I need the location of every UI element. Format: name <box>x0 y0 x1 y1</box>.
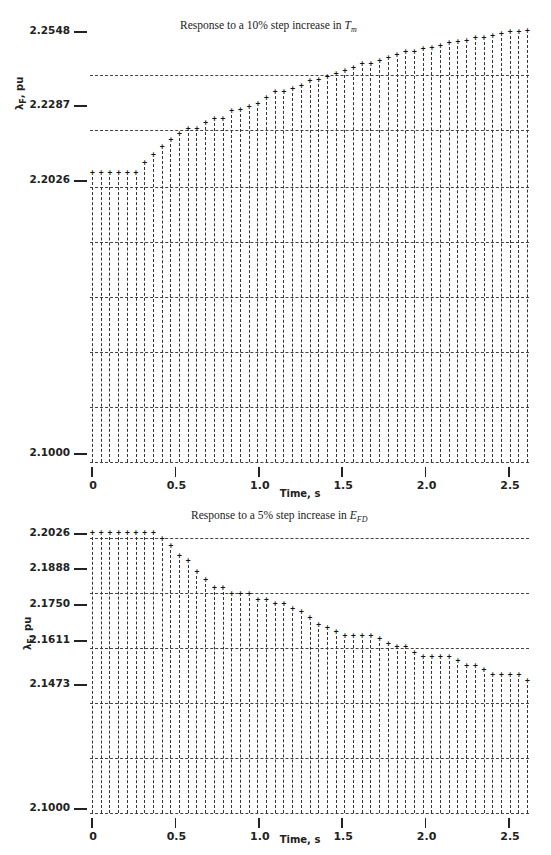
data-bar <box>188 565 189 813</box>
data-point-marker: + <box>229 590 234 598</box>
data-bar <box>518 679 519 813</box>
data-bar <box>501 679 502 813</box>
data-bar <box>431 661 432 813</box>
data-point-marker: + <box>116 529 121 537</box>
data-bar <box>510 679 511 813</box>
data-point-marker: + <box>273 600 278 608</box>
data-point-marker: + <box>160 535 165 543</box>
x-tick-label: 1.0 <box>250 830 270 843</box>
x-tick-mark <box>508 818 510 828</box>
data-point-marker: + <box>334 628 339 636</box>
data-bar <box>440 661 441 813</box>
data-bar <box>527 685 528 813</box>
y-tick-label: 2.1750 <box>10 597 70 609</box>
data-bar <box>266 604 267 813</box>
data-point-marker: + <box>482 666 487 674</box>
data-point-marker: + <box>151 529 156 537</box>
x-tick-mark <box>425 818 427 828</box>
y-tick-mark <box>74 640 87 642</box>
data-bar <box>153 537 154 813</box>
data-bar <box>144 537 145 813</box>
data-bar <box>475 670 476 813</box>
y-tick-label: 2.2026 <box>10 526 70 538</box>
data-bar <box>484 674 485 813</box>
data-point-marker: + <box>247 590 252 598</box>
x-tick-label: 0 <box>89 830 97 843</box>
y-tick-label: 2.1888 <box>10 561 70 573</box>
data-bar <box>397 651 398 813</box>
data-point-marker: + <box>316 621 321 629</box>
data-point-marker: + <box>473 662 478 670</box>
x-tick-mark <box>258 818 260 828</box>
data-point-marker: + <box>221 584 226 592</box>
data-point-marker: + <box>403 643 408 651</box>
data-bar <box>283 608 284 813</box>
data-bar <box>249 598 250 813</box>
data-point-marker: + <box>107 529 112 537</box>
data-bar <box>275 608 276 813</box>
data-point-marker: + <box>455 657 460 665</box>
data-point-marker: + <box>134 529 139 537</box>
data-point-marker: + <box>421 653 426 661</box>
grid-line <box>90 538 529 539</box>
data-bar <box>170 550 171 813</box>
data-bar <box>353 640 354 813</box>
data-point-marker: + <box>238 590 243 598</box>
data-point-marker: + <box>377 635 382 643</box>
data-bar <box>240 598 241 813</box>
data-bar <box>457 665 458 813</box>
data-bar <box>405 651 406 813</box>
x-tick-label: 1.5 <box>333 830 353 843</box>
data-point-marker: + <box>438 653 443 661</box>
data-point-marker: + <box>464 662 469 670</box>
data-point-marker: + <box>212 584 217 592</box>
data-bar <box>109 537 110 813</box>
data-point-marker: + <box>412 649 417 657</box>
data-point-marker: + <box>125 529 130 537</box>
chart-title: Response to a 5% step increase in EFD <box>191 509 367 524</box>
data-point-marker: + <box>429 653 434 661</box>
grid-line <box>90 593 529 594</box>
data-bar <box>310 622 311 813</box>
data-point-marker: + <box>395 643 400 651</box>
y-tick-mark <box>74 808 87 810</box>
data-bar <box>162 543 163 813</box>
x-tick-label: 0.5 <box>167 830 187 843</box>
y-tick-label: 2.1000 <box>10 801 70 813</box>
data-bar <box>344 640 345 813</box>
data-point-marker: + <box>142 529 147 537</box>
data-point-marker: + <box>325 624 330 632</box>
data-bar <box>370 640 371 813</box>
data-point-marker: + <box>99 529 104 537</box>
x-tick-mark <box>175 818 177 828</box>
data-point-marker: + <box>386 640 391 648</box>
data-point-marker: + <box>281 600 286 608</box>
data-bar <box>231 598 232 813</box>
data-bar <box>449 661 450 813</box>
y-tick-mark <box>74 604 87 606</box>
data-bar <box>118 537 119 813</box>
data-point-marker: + <box>255 596 260 604</box>
data-point-marker: + <box>508 671 513 679</box>
grid-line <box>90 813 529 814</box>
y-tick-mark <box>74 684 87 686</box>
data-point-marker: + <box>90 529 95 537</box>
data-bar <box>423 661 424 813</box>
data-point-marker: + <box>368 632 373 640</box>
data-bar <box>318 629 319 813</box>
x-tick-mark <box>91 818 93 828</box>
y-tick-label: 2.1611 <box>10 633 70 645</box>
data-point-marker: + <box>308 614 313 622</box>
data-point-marker: + <box>499 671 504 679</box>
data-bar <box>327 632 328 813</box>
data-point-marker: + <box>299 608 304 616</box>
data-point-marker: + <box>351 632 356 640</box>
data-point-marker: + <box>290 605 295 613</box>
data-bar <box>466 670 467 813</box>
data-bar <box>92 537 93 813</box>
data-point-marker: + <box>194 568 199 576</box>
data-point-marker: + <box>186 557 191 565</box>
data-point-marker: + <box>360 632 365 640</box>
data-point-marker: + <box>177 552 182 560</box>
data-point-marker: + <box>342 632 347 640</box>
